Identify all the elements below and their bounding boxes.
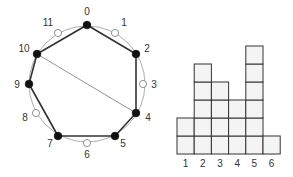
- interval-histogram: 123456: [177, 46, 280, 169]
- empty-node: [32, 109, 39, 116]
- filled-node: [111, 132, 119, 140]
- filled-node: [33, 50, 41, 58]
- node-label: 2: [144, 43, 150, 54]
- histogram-cell: [177, 118, 194, 136]
- histogram-cell: [246, 46, 263, 64]
- node-label: 0: [84, 6, 90, 17]
- histogram-cell: [229, 136, 246, 154]
- filled-node: [132, 50, 140, 58]
- histogram-category-label: 3: [217, 158, 223, 169]
- histogram-cell: [194, 100, 211, 118]
- empty-node: [139, 80, 146, 87]
- node-label: 5: [120, 138, 126, 149]
- node-label: 10: [18, 43, 30, 54]
- node-label: 3: [151, 79, 157, 90]
- empty-node: [83, 139, 90, 146]
- node-label: 1: [121, 17, 127, 28]
- node-label: 7: [47, 138, 53, 149]
- histogram-cell: [246, 82, 263, 100]
- node-label: 9: [14, 79, 20, 90]
- histogram-cell: [246, 100, 263, 118]
- histogram-cell: [194, 64, 211, 82]
- filled-node: [132, 109, 140, 117]
- histogram-cell: [246, 118, 263, 136]
- empty-node: [111, 29, 118, 36]
- filled-node: [54, 132, 62, 140]
- empty-node: [54, 29, 61, 36]
- histogram-cell: [229, 118, 246, 136]
- histogram-category-label: 2: [200, 158, 206, 169]
- histogram-cell: [229, 100, 246, 118]
- histogram-category-label: 5: [252, 158, 258, 169]
- histogram-cell: [263, 136, 280, 154]
- node-label: 8: [22, 112, 28, 123]
- histogram-cell: [194, 82, 211, 100]
- histogram-category-label: 1: [183, 158, 189, 169]
- histogram-cell: [177, 136, 194, 154]
- node-label: 11: [43, 17, 54, 28]
- chord-line: [37, 54, 136, 113]
- histogram-cell: [246, 136, 263, 154]
- filled-node: [83, 21, 91, 29]
- histogram-cell: [211, 82, 228, 100]
- histogram-category-label: 6: [269, 158, 275, 169]
- histogram-cell: [194, 136, 211, 154]
- histogram-cell: [246, 64, 263, 82]
- histogram-cell: [211, 100, 228, 118]
- histogram-category-label: 4: [234, 158, 240, 169]
- histogram-cell: [211, 136, 228, 154]
- histogram-cell: [211, 118, 228, 136]
- node-label: 6: [84, 149, 90, 160]
- node-label: 4: [145, 112, 151, 123]
- heptagon-polygon: [29, 25, 136, 136]
- filled-node: [25, 80, 33, 88]
- histogram-cell: [194, 118, 211, 136]
- pitch-class-circle: 01234567891011: [14, 6, 157, 160]
- diagram-canvas: 01234567891011 123456: [0, 0, 293, 177]
